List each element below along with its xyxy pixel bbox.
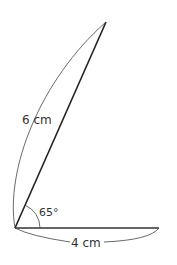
side-4cm-label: 4 cm (71, 236, 101, 250)
angle-label: 65° (39, 206, 59, 219)
measure-brace-4cm-left (15, 228, 70, 242)
angle-arc-65 (26, 205, 41, 228)
measure-brace-4cm-right (104, 228, 159, 242)
side-6cm-label: 6 cm (22, 113, 52, 127)
triangle-diagram: 6 cm 65° 4 cm (0, 0, 177, 265)
